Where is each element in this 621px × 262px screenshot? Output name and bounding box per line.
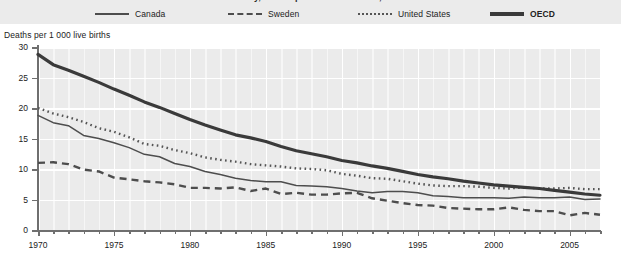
- x-axis-tick: [539, 231, 541, 234]
- y-axis-tick: [32, 169, 38, 171]
- x-axis-tick: [600, 231, 602, 234]
- x-axis-tick: [524, 231, 526, 234]
- y-axis-tick: [32, 139, 38, 141]
- x-axis-tick: [281, 231, 283, 234]
- y-axis-tick-label: 10: [2, 164, 28, 174]
- x-axis-tick: [205, 231, 207, 234]
- x-axis-tick: [448, 231, 450, 234]
- grid-line-vertical: [600, 47, 602, 230]
- x-axis-tick-label: 2005: [550, 240, 590, 250]
- x-axis-tick: [129, 231, 131, 234]
- x-axis-tick: [418, 231, 420, 236]
- legend-item-canada[interactable]: Canada: [95, 4, 165, 24]
- x-axis-tick-label: 1990: [322, 240, 362, 250]
- series-line-sweden: [38, 162, 600, 215]
- x-axis-tick: [175, 231, 177, 234]
- chart-figure: Infant mortality, deaths per 1 000 live …: [0, 0, 621, 262]
- x-axis-tick: [570, 231, 572, 236]
- y-axis-tick-label: 15: [2, 134, 28, 144]
- x-axis-tick-label: 1970: [18, 240, 58, 250]
- x-axis-tick: [84, 231, 86, 234]
- y-axis-tick: [32, 47, 38, 49]
- legend-label: Canada: [135, 9, 165, 19]
- y-axis-tick-label: 20: [2, 103, 28, 113]
- x-axis-tick-label: 1980: [170, 240, 210, 250]
- y-axis-tick: [32, 78, 38, 80]
- x-axis-tick: [68, 231, 70, 234]
- x-axis-tick: [509, 231, 511, 234]
- x-axis-tick: [114, 231, 116, 236]
- x-axis-tick-label: 2000: [474, 240, 514, 250]
- x-axis-tick: [433, 231, 435, 234]
- legend-label: OECD: [530, 9, 555, 19]
- legend-swatch-icon: [95, 9, 129, 19]
- x-axis-tick: [160, 231, 162, 234]
- x-axis-tick: [585, 231, 587, 234]
- legend-item-sweden[interactable]: Sweden: [228, 4, 299, 24]
- y-axis-tick-label: 30: [2, 42, 28, 52]
- x-axis-tick: [387, 231, 389, 234]
- y-axis-tick-label: 25: [2, 73, 28, 83]
- x-axis-tick: [220, 231, 222, 234]
- data-lines: [38, 47, 600, 230]
- legend-label: Sweden: [268, 9, 299, 19]
- series-line-united-states: [38, 108, 600, 189]
- x-axis-tick: [403, 231, 405, 234]
- legend-item-united-states[interactable]: United States: [358, 4, 450, 24]
- x-axis-tick: [190, 231, 192, 236]
- legend-swatch-icon: [228, 9, 262, 19]
- legend-swatch-icon: [358, 9, 392, 19]
- x-axis-tick: [478, 231, 480, 234]
- x-axis-tick: [266, 231, 268, 236]
- x-axis-tick-label: 1995: [398, 240, 438, 250]
- x-axis-tick: [463, 231, 465, 234]
- y-axis-label: Deaths per 1 000 live births: [4, 30, 110, 40]
- y-axis-tick: [32, 108, 38, 110]
- x-axis-tick: [296, 231, 298, 234]
- x-axis-tick: [99, 231, 101, 234]
- x-axis-line: [37, 230, 601, 232]
- x-axis-tick: [38, 231, 40, 236]
- legend-swatch-icon: [490, 9, 524, 19]
- x-axis-tick: [357, 231, 359, 234]
- x-axis-tick: [53, 231, 55, 234]
- legend-item-oecd[interactable]: OECD: [490, 4, 555, 24]
- y-axis-tick-label: 5: [2, 195, 28, 205]
- chart-legend: CanadaSwedenUnited StatesOECD: [0, 4, 621, 24]
- series-line-oecd: [38, 54, 600, 195]
- x-axis-tick: [342, 231, 344, 236]
- chart-title: Infant mortality, deaths per 1 000 live …: [0, 0, 621, 2]
- x-axis-tick: [494, 231, 496, 236]
- x-axis-tick: [554, 231, 556, 234]
- x-axis-tick: [251, 231, 253, 234]
- x-axis-tick: [144, 231, 146, 234]
- y-axis-tick-label: 0: [2, 225, 28, 235]
- x-axis-tick: [235, 231, 237, 234]
- legend-label: United States: [398, 9, 450, 19]
- x-axis-tick-label: 1985: [246, 240, 286, 250]
- x-axis-tick: [372, 231, 374, 234]
- y-axis-tick: [32, 200, 38, 202]
- x-axis-tick: [327, 231, 329, 234]
- x-axis-tick-label: 1975: [94, 240, 134, 250]
- x-axis-tick: [311, 231, 313, 234]
